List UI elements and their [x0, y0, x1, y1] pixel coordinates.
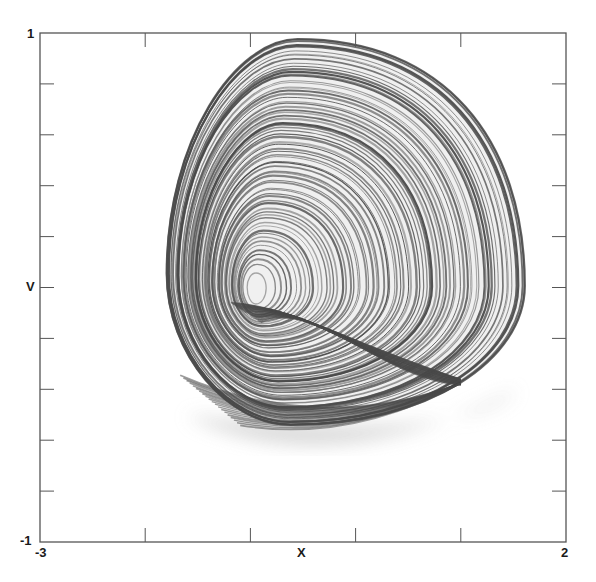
x-axis-label: X [297, 545, 306, 560]
y-tick-label-top: 1 [27, 26, 34, 41]
x-tick-label-right: 2 [561, 545, 568, 560]
y-axis-label: V [26, 279, 35, 294]
attractor-plot [0, 0, 596, 582]
y-tick-label-bottom: -1 [20, 533, 32, 548]
x-tick-label-left: -3 [35, 545, 47, 560]
